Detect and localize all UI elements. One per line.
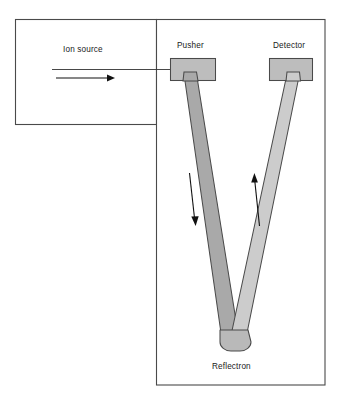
ion-source-chamber (16, 20, 157, 125)
reflectron-cap (220, 330, 251, 351)
pusher-label: Pusher (177, 41, 204, 50)
descending-arm-neck (183, 72, 198, 81)
ion-source-label: Ion source (63, 45, 103, 54)
detector-label: Detector (273, 41, 305, 50)
diagram-canvas: Ion source Pusher Detector Reflectron (0, 0, 341, 404)
reflectron-label: Reflectron (212, 362, 251, 371)
reflectron-tof-diagram: Ion source Pusher Detector Reflectron (0, 0, 341, 404)
ascending-arm-neck (286, 72, 301, 81)
